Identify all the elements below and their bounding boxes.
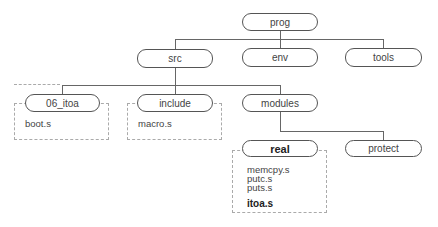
connector-env-up: [280, 39, 281, 48]
node-env[interactable]: env: [242, 48, 318, 67]
node-real[interactable]: real: [242, 140, 318, 157]
file-boot-s: boot.s: [25, 120, 51, 128]
connector-level3-horizontal: [280, 131, 384, 132]
connector-level2-horizontal: [62, 85, 281, 86]
node-src[interactable]: src: [137, 49, 213, 68]
connector-modules-down: [280, 112, 281, 131]
file-macro-s: macro.s: [138, 120, 172, 128]
node-prog[interactable]: prog: [242, 13, 318, 31]
connector-prog-down: [280, 31, 281, 39]
node-modules[interactable]: modules: [242, 94, 318, 112]
connector-06itoa-up: [62, 85, 63, 94]
node-06-itoa[interactable]: 06_itoa: [25, 94, 100, 112]
connector-src-up: [175, 39, 176, 49]
file-puts-s: puts.s: [247, 184, 272, 192]
connector-tools-up: [383, 39, 384, 48]
connector-include-up: [175, 85, 176, 94]
connector-src-down: [175, 68, 176, 85]
connector-protect-up: [383, 131, 384, 140]
node-protect[interactable]: protect: [345, 140, 422, 157]
node-include[interactable]: include: [137, 94, 213, 112]
dashed-guide-line: [14, 84, 60, 85]
node-tools[interactable]: tools: [345, 48, 422, 67]
connector-modules-up: [280, 85, 281, 94]
file-itoa-s: itoa.s: [247, 200, 273, 208]
